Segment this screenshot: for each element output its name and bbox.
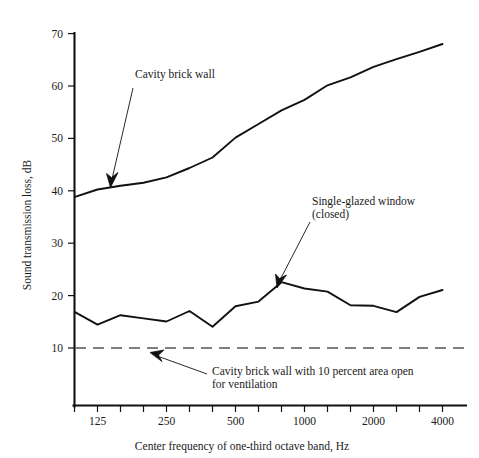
annotation-arrowhead <box>107 173 119 188</box>
y-tick-label: 70 <box>52 28 64 40</box>
x-axis-title: Center frequency of one-third octave ban… <box>135 440 349 453</box>
y-tick-label: 60 <box>52 80 64 92</box>
annotation-label-single-glazed-window-line2: (closed) <box>312 208 349 221</box>
y-tick-label: 40 <box>52 185 64 197</box>
y-tick-label: 20 <box>52 290 64 302</box>
annotation-label-ventilation-line1: Cavity brick wall with 10 percent area o… <box>212 365 414 378</box>
series-line-single-glazed-window <box>75 282 443 327</box>
y-axis-title: Sound transmission loss, dB <box>21 159 34 290</box>
x-tick-label: 1000 <box>293 415 316 427</box>
x-tick-label: 4000 <box>431 415 454 427</box>
annotation-single-glazed-window: Single-glazed window (closed) <box>276 195 416 288</box>
annotation-label-ventilation-line2: for ventilation <box>212 378 278 390</box>
annotation-arrowhead <box>276 274 287 288</box>
annotation-leader-line <box>160 357 207 374</box>
chart-figure: 70 60 50 40 30 20 10 <box>0 0 479 458</box>
series-line-cavity-brick-wall <box>75 44 443 197</box>
y-tick-label: 30 <box>52 237 64 249</box>
annotation-label-single-glazed-window-line1: Single-glazed window <box>312 195 416 208</box>
x-tick-label: 250 <box>158 415 176 427</box>
annotation-leader-line <box>280 222 310 280</box>
chart-plot-area: 70 60 50 40 30 20 10 <box>0 0 479 458</box>
x-axis-tick-labels: 125 250 500 1000 2000 4000 <box>89 415 454 427</box>
annotation-arrowhead <box>150 350 164 362</box>
y-tick-label: 50 <box>52 132 64 144</box>
x-tick-label: 500 <box>227 415 245 427</box>
annotation-cavity-brick-wall: Cavity brick wall <box>107 68 215 188</box>
x-tick-label: 2000 <box>362 415 385 427</box>
y-axis-tick-labels: 70 60 50 40 30 20 10 <box>52 28 64 354</box>
annotation-label-cavity-brick-wall: Cavity brick wall <box>135 68 215 81</box>
x-tick-label: 125 <box>89 415 107 427</box>
y-tick-label: 10 <box>52 342 64 354</box>
annotation-leader-line <box>112 88 133 179</box>
annotation-cavity-brick-wall-ventilation: Cavity brick wall with 10 percent area o… <box>150 350 414 390</box>
